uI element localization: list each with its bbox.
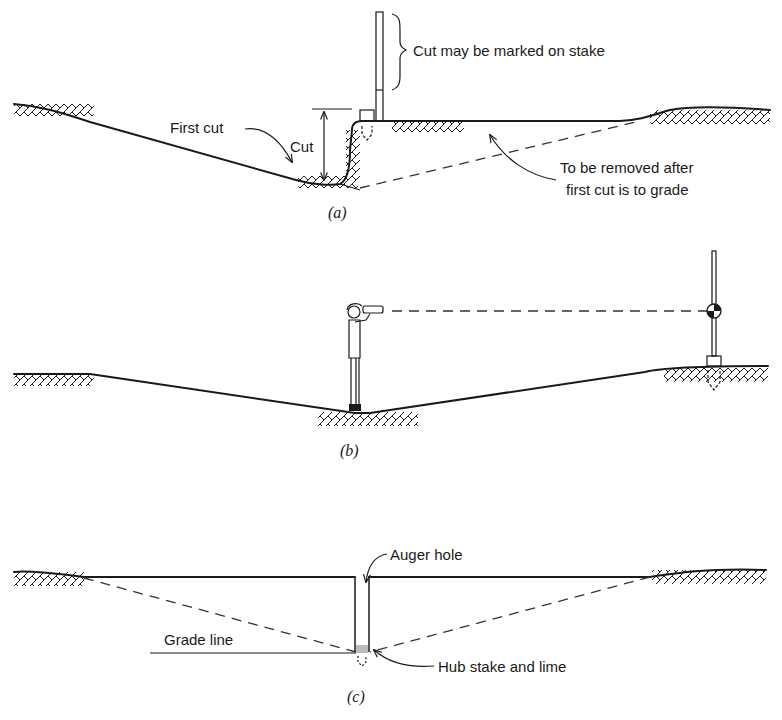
first-cut-leader — [245, 129, 292, 162]
caption-c: (c) — [347, 688, 365, 706]
removal-leader — [490, 135, 556, 180]
ground-hatch-far-right — [650, 110, 770, 124]
hub-stake-c — [358, 656, 366, 666]
hub-stake — [360, 110, 374, 121]
surveyor-figure — [347, 304, 383, 411]
ditch-profile-b — [14, 366, 768, 413]
ground-hatch-bottom-b — [318, 412, 418, 426]
caption-a: (a) — [328, 204, 347, 222]
ground-hatch-left-b — [14, 374, 94, 386]
hand-level-icon — [363, 306, 383, 313]
panel-c: Grade line Auger hole Hub stake and lime… — [14, 546, 766, 706]
hub-stake-leader — [374, 650, 434, 666]
removal-note-line1: To be removed after — [560, 159, 693, 176]
hub-stake-label: Hub stake and lime — [438, 658, 566, 675]
guard-stake — [376, 12, 383, 121]
panel-b: (b) — [14, 251, 768, 460]
ground-hatch-right-c — [652, 570, 766, 584]
hub-stake-buried — [362, 126, 372, 140]
grade-line-label: Grade line — [164, 631, 233, 648]
first-cut-label: First cut — [170, 119, 224, 136]
stake-note-label: Cut may be marked on stake — [413, 42, 605, 59]
removal-note-line2: first cut is to grade — [566, 181, 689, 198]
lime-marker — [356, 645, 368, 653]
panel-a: Cut may be marked on stake Cut First cut… — [14, 12, 770, 222]
ground-hatch-left-c — [14, 572, 84, 586]
ground-hatch-right-b — [664, 368, 768, 382]
trench-grade-diagram: Cut may be marked on stake Cut First cut… — [0, 0, 782, 720]
caption-b: (b) — [340, 442, 359, 460]
brace — [392, 14, 406, 90]
auger-hole-label: Auger hole — [390, 546, 463, 563]
hub-stake-b — [707, 356, 721, 366]
grade-dashed-right-c — [370, 577, 650, 652]
cut-label: Cut — [290, 138, 314, 155]
